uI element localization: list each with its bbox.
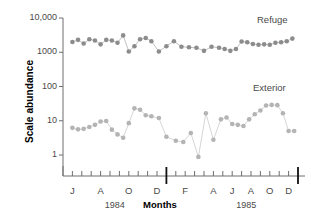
data-point-exterior [110,127,115,132]
y-axis-label: Scale abundance [24,42,35,162]
year-label: 1985 [226,200,266,210]
data-point-exterior [211,137,216,142]
data-point-refuge [164,44,169,49]
y-tick-label: 1000 [11,46,57,56]
data-point-refuge [87,37,92,42]
data-point-refuge [187,45,192,50]
data-point-exterior [157,116,162,121]
x-tick-label: D [150,185,164,196]
data-series [70,33,296,159]
data-point-exterior [224,115,229,120]
data-point-exterior [286,129,291,134]
data-point-exterior [132,106,137,111]
data-point-refuge [217,45,222,50]
data-point-exterior [275,103,280,108]
data-point-refuge [98,42,103,47]
data-point-exterior [264,103,269,108]
data-point-exterior [292,129,297,134]
data-point-refuge [172,39,177,44]
data-point-refuge [179,44,184,49]
data-point-refuge [239,39,244,44]
data-point-exterior [93,123,98,128]
data-point-exterior [164,135,169,140]
data-point-exterior [269,103,274,108]
data-point-exterior [127,121,132,126]
data-point-exterior [230,122,235,127]
data-point-exterior [174,138,179,143]
data-point-refuge [234,47,239,52]
year-label: 1984 [95,200,135,210]
data-point-refuge [222,47,227,52]
data-point-refuge [110,38,115,43]
data-point-refuge [121,33,126,38]
data-point-refuge [202,49,207,54]
data-point-refuge [284,39,289,44]
scale-abundance-chart: Scale abundance 10,0001000100101 JAODFAJ… [0,0,311,222]
data-point-exterior [241,124,246,129]
data-point-refuge [251,42,256,47]
data-point-refuge [76,38,81,43]
data-point-exterior [87,125,92,130]
y-tick-label: 100 [11,81,57,91]
x-tick-label: O [263,185,277,196]
x-tick-label: O [122,185,136,196]
data-point-refuge [262,42,267,47]
data-point-refuge [268,43,273,48]
x-tick-label: J [65,185,79,196]
data-point-exterior [252,112,257,117]
data-point-refuge [290,36,295,41]
data-point-refuge [209,44,214,49]
series-annotation-exterior: Exterior [253,82,286,93]
data-point-exterior [258,108,263,113]
data-point-exterior [204,111,209,116]
data-point-refuge [138,37,143,42]
data-point-exterior [181,140,186,145]
data-point-exterior [70,126,75,131]
data-point-refuge [104,38,109,43]
series-annotation-refuge: Refuge [257,14,288,25]
x-tick-label: A [206,185,220,196]
data-point-exterior [281,111,286,116]
x-tick-label: A [244,185,258,196]
data-point-exterior [143,113,148,118]
data-point-refuge [228,49,233,54]
data-point-refuge [157,49,162,54]
data-point-refuge [127,49,132,54]
y-tick-label: 10,000 [11,12,57,22]
data-point-exterior [81,127,86,132]
data-point-exterior [196,155,201,160]
data-point-refuge [81,41,86,46]
data-point-exterior [149,114,154,119]
data-point-exterior [138,107,143,112]
data-point-exterior [189,131,194,136]
data-point-exterior [236,123,241,128]
data-point-exterior [219,117,224,122]
y-tick-label: 1 [11,149,57,159]
data-point-refuge [245,40,250,45]
data-point-refuge [149,39,154,44]
data-point-refuge [132,44,137,49]
data-point-refuge [115,40,120,45]
data-point-refuge [70,40,75,45]
data-point-refuge [256,43,261,48]
x-tick-label: J [225,185,239,196]
data-point-refuge [93,38,98,43]
data-point-refuge [273,40,278,45]
data-point-exterior [247,117,252,122]
data-point-refuge [194,45,199,50]
x-tick-label: A [94,185,108,196]
data-point-exterior [104,119,109,124]
x-axis-label: Months [135,199,185,210]
data-point-exterior [98,119,103,124]
data-point-exterior [121,135,126,140]
data-point-refuge [143,36,148,41]
y-tick-label: 10 [11,115,57,125]
data-point-refuge [279,40,284,45]
data-point-exterior [115,132,120,137]
x-tick-label: F [178,185,192,196]
x-tick-label: D [282,185,296,196]
data-point-exterior [76,127,81,132]
